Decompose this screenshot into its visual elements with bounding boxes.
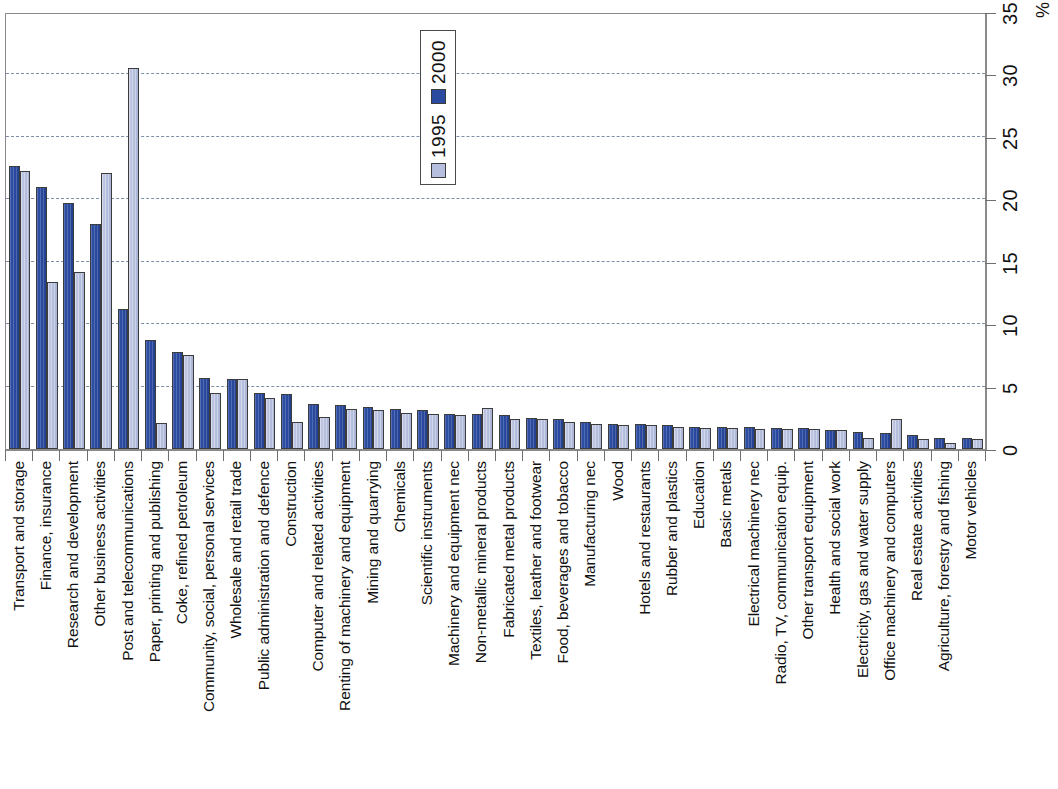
bar-2000 [499,415,510,449]
bar-2000 [744,427,755,449]
category-label: Food, beverages and tobacco [555,461,571,663]
y-tick-10 [985,325,996,326]
bar-group [496,14,523,449]
bar-1995 [700,428,711,449]
x-tick [250,450,251,461]
category-label: Public administration and defence [256,461,272,690]
y-tick-label-20: 20 [1000,178,1040,222]
bar-group [33,14,60,449]
category-label: Electricity, gas and water supply [855,461,871,678]
bar-2000 [580,422,591,449]
bar-1995 [727,428,738,449]
bar-group [6,14,33,449]
legend-swatch-1995 [431,163,446,178]
bar-1995 [183,355,194,449]
bar-group [795,14,822,449]
y-tick-0 [985,450,996,451]
bar-2000 [717,427,728,449]
x-tick [386,450,387,461]
bar-2000 [771,428,782,449]
x-tick [658,450,659,461]
x-tick [931,450,932,461]
bar-group [823,14,850,449]
x-tick [522,450,523,461]
bar-1995 [755,429,766,449]
bar-2000 [444,414,455,449]
category-label: Construction [283,461,299,547]
bar-2000 [553,419,564,449]
bar-2000 [662,425,673,449]
bar-1995 [20,171,31,449]
y-tick-label-25: 25 [1000,116,1040,160]
bar-1995 [510,419,521,449]
category-label: Renting of machinery and equipment [337,461,353,711]
bar-group [197,14,224,449]
bar-group [60,14,87,449]
bar-1995 [265,398,276,449]
bar-group [224,14,251,449]
y-tick-label-30: 30 [1000,53,1040,97]
x-tick [849,450,850,461]
bar-group [850,14,877,449]
bar-group [333,14,360,449]
category-label: Scientific instruments [419,461,435,605]
x-tick [468,450,469,461]
bar-1995 [809,429,820,449]
category-label: Paper, printing and publishing [147,461,163,662]
x-tick [631,450,632,461]
bar-group [904,14,931,449]
bar-2000 [798,428,809,449]
category-label: Hotels and restaurants [637,461,653,615]
x-tick [903,450,904,461]
bar-1995 [346,409,357,449]
legend-label-1995: 1995 [429,114,448,158]
bar-group [632,14,659,449]
x-tick [141,450,142,461]
bar-group [659,14,686,449]
category-label: Radio, TV, communication equip. [773,461,789,685]
x-tick [304,450,305,461]
category-label: Finance, insurance [38,461,54,590]
bar-group [115,14,142,449]
x-tick [114,450,115,461]
bar-1995 [537,419,548,449]
x-axis-line [5,449,987,451]
y-axis-unit-label: % [1033,2,1054,18]
category-label: Wood [610,461,626,501]
bar-1995 [891,419,902,449]
y-tick-15 [985,263,996,264]
bar-2000 [90,224,101,449]
bar-group [550,14,577,449]
category-label: Agriculture, forestry and fishing [936,461,952,671]
bar-1995 [564,422,575,449]
category-label: Machinery and equipment nec [446,461,462,666]
bar-1995 [319,417,330,449]
bar-1995 [74,272,85,449]
x-tick [413,450,414,461]
legend-entry-2000: 2000 [429,40,448,104]
bar-2000 [145,340,156,449]
bar-group [959,14,986,449]
bar-2000 [9,166,20,449]
bar-group [932,14,959,449]
bar-group [142,14,169,449]
legend-entry-1995: 1995 [429,114,448,178]
bar-1995 [455,415,466,449]
bar-2000 [281,394,292,449]
x-tick [168,450,169,461]
x-tick [277,450,278,461]
bar-2000 [907,435,918,449]
x-tick [577,450,578,461]
category-label: Mining and quarrying [365,461,381,604]
bar-2000 [417,410,428,449]
y-tick-label-15: 15 [1000,241,1040,285]
y-tick-30 [985,75,996,76]
x-tick [5,450,6,461]
bar-2000 [526,418,537,449]
category-label: Office machinery and computers [882,461,898,681]
bar-group [251,14,278,449]
legend-label-2000: 2000 [429,40,448,84]
y-tick-label-5: 5 [1000,366,1040,410]
bar-2000 [308,404,319,449]
bar-2000 [934,438,945,449]
